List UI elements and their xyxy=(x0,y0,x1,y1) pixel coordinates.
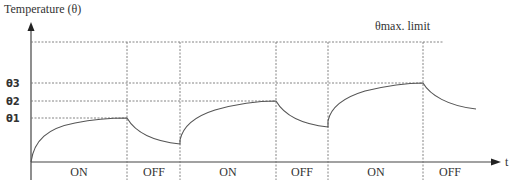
theta3-label: θ3 xyxy=(6,78,20,89)
temperature-curve xyxy=(31,83,476,162)
diagram-canvas: Temperature (θ) t θmax. limit θ3 θ2 θ1 O… xyxy=(0,0,510,196)
phase-label-off-1: OFF xyxy=(143,165,165,179)
theta-max-limit-label: θmax. limit xyxy=(375,19,431,33)
y-axis-arrow-icon xyxy=(28,22,35,31)
x-axis-arrow-icon xyxy=(491,159,501,166)
x-axis-label: t xyxy=(505,155,509,169)
phase-label-off-3: OFF xyxy=(439,165,461,179)
phase-label-on-3: ON xyxy=(367,165,385,179)
phase-label-off-2: OFF xyxy=(291,165,313,179)
temperature-cycle-diagram: Temperature (θ) t θmax. limit θ3 θ2 θ1 O… xyxy=(0,0,510,196)
y-axis-label: Temperature (θ) xyxy=(4,2,81,16)
phase-label-on-2: ON xyxy=(219,165,237,179)
theta1-label: θ1 xyxy=(6,113,20,124)
phase-label-on-1: ON xyxy=(70,165,88,179)
theta2-label: θ2 xyxy=(6,96,20,107)
